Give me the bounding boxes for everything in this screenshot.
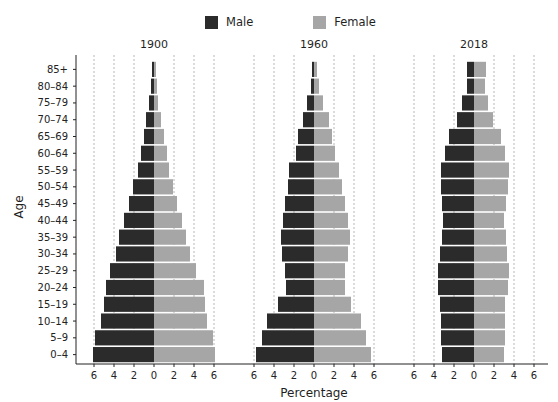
bar-female-1960-30–34: [314, 246, 348, 261]
x-tick-label: 4: [351, 370, 357, 381]
bar-female-2018-70–74: [474, 112, 493, 127]
bar-male-1900-0–4: [93, 347, 154, 362]
x-tick-label: 6: [91, 370, 97, 381]
bar-male-1900-50–54: [133, 179, 154, 194]
bar-male-1960-15–19: [278, 297, 314, 312]
bar-female-2018-10–14: [474, 313, 505, 328]
bar-male-2018-5–9: [441, 330, 474, 345]
bar-male-1900-80–84: [151, 79, 154, 94]
y-tick-label: 45–49: [38, 198, 68, 209]
bar-female-2018-75–79: [474, 95, 488, 110]
bar-male-1960-20–24: [286, 280, 314, 295]
bar-female-2018-15–19: [474, 297, 505, 312]
bar-male-1900-30–34: [116, 246, 154, 261]
bar-male-1900-60–64: [141, 146, 154, 161]
y-tick-label: 25–29: [38, 265, 68, 276]
bar-male-2018-55–59: [441, 162, 474, 177]
population-pyramid-chart: 0–45–910–1415–1920–2425–2930–3435–3940–4…: [0, 0, 558, 402]
y-tick-label: 55–59: [38, 165, 68, 176]
x-tick-label: 0: [311, 370, 317, 381]
bar-female-1960-70–74: [314, 112, 329, 127]
bar-female-2018-25–29: [474, 263, 509, 278]
bar-male-1960-70–74: [303, 112, 314, 127]
bar-female-1960-0–4: [314, 347, 371, 362]
bar-female-1960-75–79: [314, 95, 323, 110]
bar-female-1900-30–34: [154, 246, 190, 261]
bar-male-1960-50–54: [288, 179, 314, 194]
y-tick-label: 75–79: [38, 97, 68, 108]
bar-female-1900-85+: [154, 62, 156, 77]
x-tick-label: 6: [371, 370, 377, 381]
bar-female-2018-45–49: [474, 196, 506, 211]
x-tick-label: 0: [151, 370, 157, 381]
x-tick-label: 2: [331, 370, 337, 381]
bar-male-2018-25–29: [438, 263, 474, 278]
bar-female-2018-85+: [474, 62, 486, 77]
panel-2018: [438, 62, 509, 362]
bar-female-2018-0–4: [474, 347, 504, 362]
bar-female-1900-55–59: [154, 162, 169, 177]
bar-female-1960-40–44: [314, 213, 348, 228]
bar-male-1900-45–49: [129, 196, 154, 211]
bar-female-1900-45–49: [154, 196, 177, 211]
x-tick-label: 2: [291, 370, 297, 381]
y-tick-label: 50–54: [38, 181, 68, 192]
x-tick-label: 2: [491, 370, 497, 381]
bar-male-2018-60–64: [445, 146, 474, 161]
bar-female-1960-10–14: [314, 313, 361, 328]
bar-female-2018-20–24: [474, 280, 508, 295]
bar-female-1900-25–29: [154, 263, 196, 278]
bar-female-2018-55–59: [474, 162, 509, 177]
x-tick-label: 6: [411, 370, 417, 381]
bar-female-1900-50–54: [154, 179, 173, 194]
bar-male-1960-40–44: [283, 213, 314, 228]
y-tick-label: 65–69: [38, 131, 68, 142]
bar-female-2018-5–9: [474, 330, 505, 345]
bar-male-2018-50–54: [441, 179, 474, 194]
x-tick-label: 6: [251, 370, 257, 381]
y-tick-label: 70–74: [38, 114, 68, 125]
bar-male-1900-5–9: [95, 330, 154, 345]
bar-male-2018-30–34: [440, 246, 474, 261]
bar-female-1900-20–24: [154, 280, 204, 295]
bar-male-1960-35–39: [281, 230, 314, 245]
bar-male-2018-75–79: [462, 95, 474, 110]
bar-female-2018-40–44: [474, 213, 504, 228]
y-tick-label: 10–14: [38, 316, 68, 327]
y-tick-label: 5–9: [50, 332, 68, 343]
x-tick-label: 4: [271, 370, 277, 381]
bar-female-1960-25–29: [314, 263, 345, 278]
panel-1900: [93, 62, 215, 362]
bar-male-1960-60–64: [296, 146, 314, 161]
bar-male-2018-15–19: [440, 297, 474, 312]
bar-female-1900-40–44: [154, 213, 182, 228]
bar-female-1960-60–64: [314, 146, 335, 161]
bar-male-1960-5–9: [262, 330, 314, 345]
bar-male-2018-35–39: [442, 230, 474, 245]
bar-male-1960-45–49: [285, 196, 314, 211]
bar-female-1960-45–49: [314, 196, 345, 211]
bar-male-2018-40–44: [443, 213, 474, 228]
bar-male-1900-75–79: [149, 95, 154, 110]
y-tick-label: 0–4: [50, 349, 68, 360]
bar-male-2018-80–84: [467, 79, 474, 94]
bar-female-1900-15–19: [154, 297, 205, 312]
bar-female-1960-5–9: [314, 330, 366, 345]
bar-female-1900-80–84: [154, 79, 157, 94]
x-tick-label: 6: [531, 370, 537, 381]
bar-male-1960-75–79: [307, 95, 314, 110]
bar-female-1900-75–79: [154, 95, 158, 110]
bar-male-2018-70–74: [457, 112, 474, 127]
bar-male-2018-20–24: [438, 280, 474, 295]
y-tick-label: 15–19: [38, 299, 68, 310]
bar-female-1900-5–9: [154, 330, 213, 345]
x-tick-label: 4: [511, 370, 517, 381]
bar-female-1960-50–54: [314, 179, 342, 194]
bar-male-1900-10–14: [101, 313, 154, 328]
x-tick-label: 2: [171, 370, 177, 381]
bar-female-2018-65–69: [474, 129, 501, 144]
bar-male-1960-65–69: [298, 129, 314, 144]
bar-male-1900-70–74: [146, 112, 154, 127]
bar-male-1960-30–34: [282, 246, 314, 261]
bar-female-1900-0–4: [154, 347, 215, 362]
